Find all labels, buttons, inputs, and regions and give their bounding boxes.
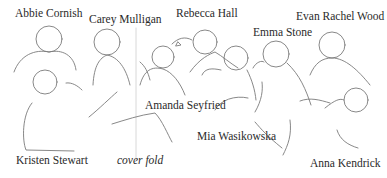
label-kristen-stewart: Kristen Stewart (16, 155, 88, 167)
label-anna-kendrick: Anna Kendrick (310, 158, 381, 170)
cover-key-diagram: Abbie Cornish Carey Mulligan Rebecca Hal… (0, 0, 387, 178)
label-cover-fold: cover fold (117, 155, 163, 167)
head-kristen-stewart (33, 70, 57, 94)
label-mia-wasikowska: Mia Wasikowska (197, 131, 276, 143)
label-rebecca-hall: Rebecca Hall (176, 8, 238, 20)
label-abbie-cornish: Abbie Cornish (15, 8, 82, 20)
collar-mia (202, 69, 221, 75)
body-kristen-stewart (24, 103, 74, 151)
label-evan-rachel-wood: Evan Rachel Wood (296, 11, 384, 23)
head-anna-kendrick (344, 88, 368, 112)
shoulders-evan-rachel-wood (310, 58, 370, 85)
head-emma-stone (263, 41, 289, 67)
arm-mia (247, 70, 256, 100)
body-amanda-seyfried (112, 113, 172, 142)
label-carey-mulligan: Carey Mulligan (89, 14, 162, 26)
head-evan-rachel-wood (319, 32, 345, 58)
shoulders-abbie-cornish (14, 51, 76, 72)
head-amanda-seyfried (152, 46, 174, 68)
label-emma-stone: Emma Stone (253, 27, 312, 39)
head-carey-mulligan (94, 29, 120, 55)
shoulders-carey-mulligan (93, 55, 130, 85)
shoulder-anna (325, 99, 344, 108)
arm2-mia (255, 82, 262, 112)
arm-anna (283, 120, 291, 155)
shoulder-emma-left (253, 61, 264, 68)
body-anna-kendrick (337, 130, 358, 148)
collar-anna (300, 99, 330, 103)
arm-kristen-stewart (66, 83, 82, 90)
shoulder-emma-right (287, 63, 311, 105)
head-abbie-cornish (36, 26, 62, 52)
hair-rebecca-hall (172, 38, 192, 44)
silhouette-outlines (0, 0, 387, 178)
shoulders-cluster (140, 68, 185, 95)
small-triangle-detail (176, 42, 181, 46)
head-rebecca-hall (193, 30, 217, 54)
label-amanda-seyfried: Amanda Seyfried (145, 100, 226, 112)
arm2-kristen-stewart (89, 92, 117, 117)
